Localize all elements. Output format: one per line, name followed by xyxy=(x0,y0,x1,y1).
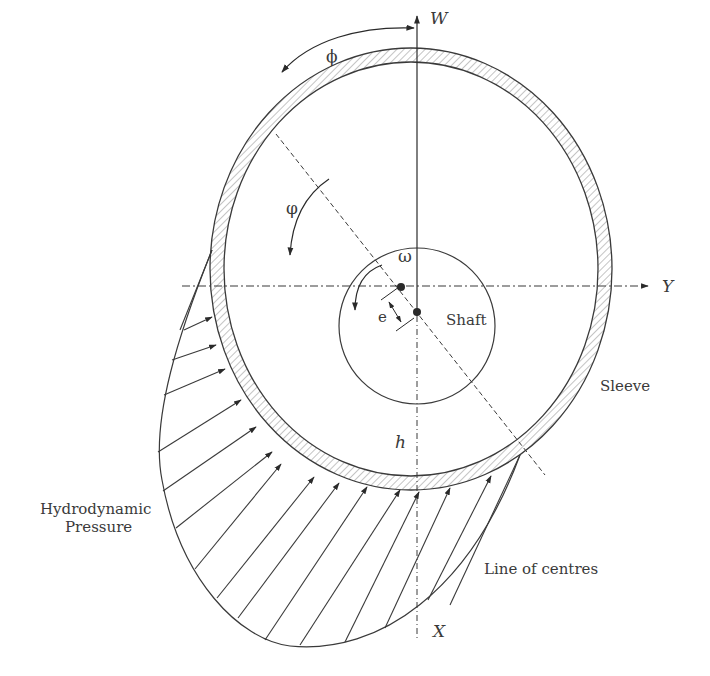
label-line-of-centres: Line of centres xyxy=(484,560,598,578)
label-sleeve: Sleeve xyxy=(600,377,650,395)
label-pressure-1: Hydrodynamic xyxy=(40,500,151,518)
label-h: h xyxy=(395,432,406,452)
label-e: e xyxy=(378,308,387,326)
pressure-boundary-line xyxy=(180,250,212,330)
label-omega: ω xyxy=(398,246,412,266)
label-varphi: φ xyxy=(286,198,298,218)
label-y: Y xyxy=(662,276,675,296)
label-w: W xyxy=(430,8,449,28)
label-pressure-2: Pressure xyxy=(65,518,132,536)
shaft-centre-point xyxy=(413,308,421,316)
label-phi: ϕ xyxy=(326,46,338,66)
journal-bearing-diagram: W Y X ϕ φ ω e h Shaft Sleeve Hydrodynami… xyxy=(0,0,710,676)
label-x: X xyxy=(431,621,446,641)
sleeve xyxy=(210,48,612,490)
label-shaft: Shaft xyxy=(446,311,486,329)
